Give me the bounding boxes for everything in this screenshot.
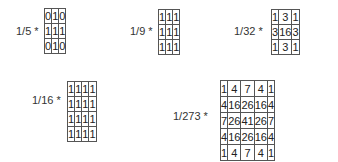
matrix-row: 14741	[221, 81, 275, 97]
matrix-cell: 1	[68, 97, 75, 112]
matrix-cell: 4	[267, 97, 274, 113]
matrix-cell: 3	[292, 25, 299, 40]
kernel-matrix: 1313163131	[271, 9, 300, 55]
matrix-cell: 1	[166, 40, 173, 55]
matrix-row: 131	[272, 10, 300, 25]
matrix-cell: 3	[272, 25, 279, 40]
matrix-cell: 1	[166, 10, 173, 25]
matrix-row: 131	[272, 40, 300, 55]
matrix-cell: 3	[279, 10, 292, 25]
kernel-matrix: 010111010	[44, 8, 66, 54]
matrix-cell: 16	[254, 129, 267, 145]
matrix-cell: 1	[221, 81, 228, 97]
matrix-row: 111	[159, 25, 180, 40]
matrix-row: 41626164	[221, 97, 275, 113]
matrix-row: 111	[45, 24, 66, 39]
kernel-normalization-label: 1/9 *	[130, 25, 153, 37]
matrix-row: 1111	[68, 82, 97, 97]
matrix-row: 010	[45, 9, 66, 24]
matrix-cell: 1	[267, 81, 274, 97]
matrix-cell: 7	[241, 145, 254, 161]
matrix-row: 1111	[68, 112, 97, 127]
matrix-cell: 7	[241, 81, 254, 97]
matrix-cell: 0	[59, 39, 66, 54]
matrix-cell: 26	[254, 113, 267, 129]
matrix-cell: 1	[52, 9, 59, 24]
matrix-cell: 4	[228, 145, 241, 161]
matrix-cell: 1	[159, 25, 166, 40]
matrix-cell: 16	[254, 97, 267, 113]
matrix-row: 41626164	[221, 129, 275, 145]
matrix-cell: 1	[82, 127, 89, 142]
matrix-cell: 1	[59, 24, 66, 39]
matrix-cell: 1	[68, 82, 75, 97]
matrix-cell: 0	[45, 39, 52, 54]
matrix-cell: 7	[267, 113, 274, 129]
matrix-cell: 4	[254, 81, 267, 97]
kernel-matrix: 111111111	[158, 9, 180, 55]
matrix-cell: 1	[267, 145, 274, 161]
matrix-cell: 1	[52, 39, 59, 54]
matrix-cell: 1	[221, 145, 228, 161]
matrix-cell: 4	[267, 129, 274, 145]
matrix-cell: 0	[59, 9, 66, 24]
matrix-row: 3163	[272, 25, 300, 40]
matrix-row: 14741	[221, 145, 275, 161]
matrix-cell: 16	[228, 129, 241, 145]
kernel-normalization-label: 1/5 *	[16, 25, 39, 37]
matrix-cell: 1	[75, 82, 82, 97]
matrix-cell: 1	[82, 112, 89, 127]
matrix-row: 010	[45, 39, 66, 54]
kernel-matrix: 1111111111111111	[67, 81, 97, 142]
matrix-cell: 1	[75, 112, 82, 127]
matrix-cell: 26	[241, 97, 254, 113]
matrix-cell: 1	[173, 40, 180, 55]
kernel-matrix: 1474141626164726412674162616414741	[220, 80, 275, 161]
matrix-cell: 1	[52, 24, 59, 39]
matrix-row: 72641267	[221, 113, 275, 129]
matrix-cell: 0	[45, 9, 52, 24]
matrix-cell: 1	[89, 127, 96, 142]
matrix-cell: 1	[89, 97, 96, 112]
matrix-cell: 1	[292, 10, 299, 25]
matrix-row: 1111	[68, 97, 97, 112]
matrix-cell: 1	[82, 97, 89, 112]
matrix-cell: 1	[89, 112, 96, 127]
kernel-normalization-label: 1/16 *	[32, 94, 61, 106]
matrix-cell: 1	[82, 82, 89, 97]
matrix-cell: 3	[279, 40, 292, 55]
matrix-cell: 26	[228, 113, 241, 129]
matrix-cell: 1	[68, 112, 75, 127]
matrix-cell: 1	[272, 10, 279, 25]
matrix-cell: 1	[173, 25, 180, 40]
kernel-normalization-label: 1/273 *	[173, 110, 208, 122]
matrix-cell: 16	[279, 25, 292, 40]
matrix-cell: 1	[159, 10, 166, 25]
matrix-cell: 41	[241, 113, 254, 129]
matrix-row: 111	[159, 40, 180, 55]
matrix-cell: 1	[166, 25, 173, 40]
kernel-normalization-label: 1/32 *	[234, 25, 263, 37]
matrix-cell: 1	[68, 127, 75, 142]
matrix-cell: 1	[272, 40, 279, 55]
matrix-cell: 1	[173, 10, 180, 25]
matrix-cell: 26	[241, 129, 254, 145]
matrix-cell: 1	[159, 40, 166, 55]
matrix-cell: 4	[254, 145, 267, 161]
matrix-cell: 4	[221, 129, 228, 145]
matrix-cell: 4	[228, 81, 241, 97]
matrix-row: 1111	[68, 127, 97, 142]
matrix-cell: 1	[89, 82, 96, 97]
matrix-cell: 7	[221, 113, 228, 129]
matrix-cell: 1	[292, 40, 299, 55]
matrix-cell: 1	[75, 97, 82, 112]
matrix-cell: 4	[221, 97, 228, 113]
matrix-row: 111	[159, 10, 180, 25]
matrix-cell: 1	[75, 127, 82, 142]
matrix-cell: 16	[228, 97, 241, 113]
matrix-cell: 1	[45, 24, 52, 39]
